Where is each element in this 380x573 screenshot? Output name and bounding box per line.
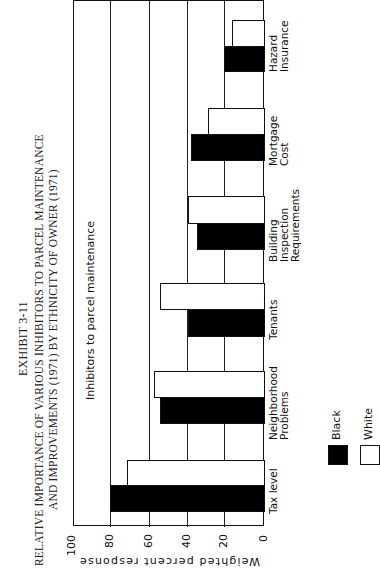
category-label-building-inspection: Building Inspection Requirements xyxy=(268,189,301,262)
bar-black-tax-level xyxy=(110,485,265,512)
category-label-tenants: Tenants xyxy=(268,300,279,340)
gridline-80 xyxy=(110,1,111,527)
tick-label-0: 0 xyxy=(257,535,270,542)
category-line: Cost xyxy=(279,116,290,166)
plot-area xyxy=(73,0,264,526)
legend-swatch-black xyxy=(328,445,348,465)
chart-title-line2: AND IMPROVEMENTS (1971) BY ETHNICITY OF … xyxy=(47,169,59,510)
tick-label-80: 80 xyxy=(103,534,116,548)
tick-label-100: 100 xyxy=(65,535,78,556)
bar-black-neighborhood-problems xyxy=(160,397,265,424)
legend-label-white: White xyxy=(362,408,375,440)
gridline-40 xyxy=(187,1,188,527)
bar-white-mortgage-cost xyxy=(208,108,265,135)
bar-white-tenants xyxy=(160,283,265,310)
bar-white-neighborhood-problems xyxy=(154,371,265,398)
exhibit-number: EXHIBIT 3-11 xyxy=(16,301,31,376)
gridline-60 xyxy=(149,1,150,527)
bar-white-hazard-insurance xyxy=(232,20,265,47)
category-line: Insurance xyxy=(279,20,290,72)
category-line: Tenants xyxy=(268,300,279,340)
tick-label-60: 60 xyxy=(142,534,155,548)
category-line: Requirements xyxy=(290,189,301,262)
plot-annotation: Inhibitors to parcel maintenance xyxy=(84,221,97,400)
bar-white-building-inspection xyxy=(188,196,265,224)
legend-label-black: Black xyxy=(330,410,343,440)
bar-black-mortgage-cost xyxy=(191,134,265,161)
bar-black-hazard-insurance xyxy=(224,46,265,72)
tick-label-40: 40 xyxy=(180,534,193,548)
bar-white-tax-level xyxy=(127,460,265,486)
y-axis-title: Weighted percent response xyxy=(85,555,260,568)
category-label-mortgage-cost: Mortgage Cost xyxy=(268,116,290,166)
chart-title-line1: RELATIVE IMPORTANCE OF VARIOUS INHIBITOR… xyxy=(33,134,45,566)
category-label-neighborhood-problems: Neighborhood Problems xyxy=(268,366,290,440)
gridline-20 xyxy=(224,1,225,527)
category-line: Tax level xyxy=(268,468,279,514)
tick-label-20: 20 xyxy=(217,534,230,548)
category-label-hazard-insurance: Hazard Insurance xyxy=(268,20,290,72)
legend-swatch-white xyxy=(360,445,380,465)
bar-black-tenants xyxy=(188,309,265,337)
category-line: Problems xyxy=(279,366,290,440)
category-label-tax-level: Tax level xyxy=(268,468,279,514)
bar-black-building-inspection xyxy=(197,223,265,250)
